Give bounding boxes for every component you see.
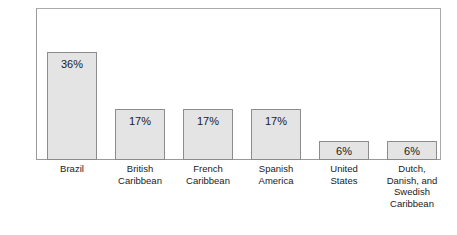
- bar-group-french-caribbean: 17%: [183, 8, 233, 160]
- y-axis: 40% 30% 20% 10% 0%: [0, 0, 36, 168]
- bar-group-dutch-danish-swedish-caribbean: 6%: [387, 8, 437, 160]
- x-axis-label-line: Swedish: [369, 186, 455, 198]
- bar-group-united-states: 6%: [319, 8, 369, 160]
- bar-value-label: 17%: [183, 115, 233, 127]
- bar-value-label: 17%: [251, 115, 301, 127]
- bar-value-label: 6%: [319, 145, 369, 157]
- x-axis-labels: Brazil British Caribbean French Caribbea…: [36, 163, 441, 225]
- x-axis-label-line: Danish, and: [369, 175, 455, 187]
- bar-chart-figure: 40% 30% 20% 10% 0% 36% 17% 17%: [0, 0, 457, 235]
- x-axis-label-line: Caribbean: [369, 198, 455, 210]
- bar-group-spanish-america: 17%: [251, 8, 301, 160]
- bar-value-label: 17%: [115, 115, 165, 127]
- bar-group-brazil: 36%: [47, 8, 97, 160]
- bar-value-label: 36%: [47, 58, 97, 70]
- x-axis-label-line: Dutch,: [369, 163, 455, 175]
- bar-value-label: 6%: [387, 145, 437, 157]
- x-axis-category-label-dutch-danish-swedish-caribbean: Dutch, Danish, and Swedish Caribbean: [369, 163, 455, 209]
- bars-layer: 36% 17% 17% 17% 6% 6%: [36, 8, 441, 160]
- bar-group-british-caribbean: 17%: [115, 8, 165, 160]
